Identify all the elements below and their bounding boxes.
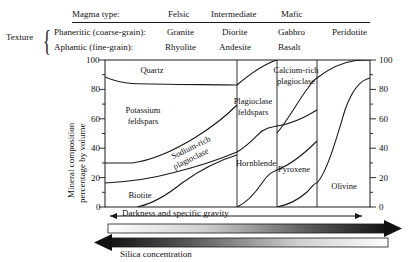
y-axis-title-line2: percentage by volume [77, 124, 87, 203]
region-label-biotite: Biotite [128, 190, 151, 200]
region-label-potassium-feldspars-line2: feldspars [128, 116, 159, 126]
region-label-calcium-plagioclase-line1: Calcium-rich [274, 65, 320, 75]
darkness-arrowhead-right [384, 220, 402, 237]
y-axis-ticks-left [99, 60, 105, 207]
x-axis-caption: Darkness and specific gravity [122, 208, 229, 218]
darkness-gradient-bar [108, 220, 402, 237]
y-tick-left-0: 0 [96, 202, 101, 212]
y-tick-left-80: 80 [91, 84, 100, 94]
region-label-pyroxene: Pyroxene [278, 164, 310, 174]
y-tick-left-40: 40 [91, 143, 100, 153]
y-tick-right-80: 80 [379, 84, 388, 94]
silica-arrowhead-left [94, 234, 112, 251]
silica-concentration-caption: Silica concentration [120, 249, 192, 259]
y-tick-right-20: 20 [379, 173, 388, 183]
plot-frame [105, 60, 370, 207]
y-tick-left-60: 60 [91, 114, 100, 124]
y-tick-right-100: 100 [379, 55, 393, 65]
y-tick-right-60: 60 [379, 114, 388, 124]
region-label-plagioclase-feldspars-line2: feldspars [238, 107, 269, 117]
y-tick-right-0: 0 [379, 202, 384, 212]
region-label-calcium-plagioclase-line2: plagioclase [277, 76, 315, 86]
region-label-potassium-feldspars-line1: Potassium [126, 105, 161, 115]
y-tick-left-20: 20 [91, 173, 100, 183]
y-tick-left-100: 100 [86, 55, 100, 65]
mineral-composition-plot: Quartz Potassium feldspars Sodium-rich p… [0, 0, 409, 262]
region-label-plagioclase-feldspars-line1: Plagioclase [234, 96, 273, 106]
region-label-quartz: Quartz [140, 65, 163, 75]
y-axis-ticks-right [370, 60, 376, 207]
region-label-hornblende: Hornblende [236, 158, 276, 168]
igneous-rock-classification-figure: Texture { Magma type: Phaneritic (coarse… [0, 0, 409, 262]
y-tick-right-40: 40 [379, 143, 388, 153]
region-label-olivine: Olivine [331, 181, 357, 191]
y-axis-title-line1: Mineral composition [66, 123, 76, 198]
